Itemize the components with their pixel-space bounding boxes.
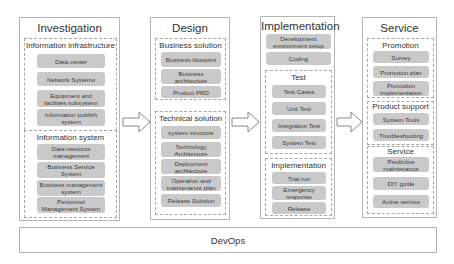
item-development-environment-setup: Development environment setup xyxy=(266,34,331,49)
item-integration-test: Integration Test xyxy=(272,119,326,132)
item-business-service-system: Business Service System xyxy=(37,162,105,178)
group-promotion: Promotion Survey Promotion plan Promotio… xyxy=(367,38,434,98)
group-title: Business solution xyxy=(156,41,225,51)
column-investigation: Investigation Information infrastructure… xyxy=(19,17,120,221)
column-title: Investigation xyxy=(20,21,119,35)
column-implementation: Implementation Development environment s… xyxy=(260,16,335,219)
item-equipment-facilities: Equipment and facilities subsystem xyxy=(37,90,105,107)
column-title: Implementation xyxy=(261,19,334,33)
item-operation-maintenance-plan: Operation and maintenance plan xyxy=(161,176,221,191)
item-release: Release xyxy=(272,202,326,214)
group-title: Information infrastructure xyxy=(25,41,116,51)
item-system-tools: System Tools xyxy=(373,113,429,125)
group-test: Test Test Cases Unit Test Integration Te… xyxy=(265,70,332,154)
group-title: Implementation xyxy=(266,161,331,171)
arrow-right-icon xyxy=(336,111,363,133)
group-service: Service Predictive maintenance DIY guide… xyxy=(367,146,434,214)
column-design: Design Business solution Business bluepr… xyxy=(150,17,230,220)
group-title: Information system xyxy=(25,133,116,143)
item-release-solution: Release Solution xyxy=(161,194,221,207)
group-title: Promotion xyxy=(368,41,433,51)
item-trial-run: Trial run xyxy=(272,172,326,184)
devops-bar: DevOps xyxy=(19,227,437,253)
item-information-publish: Information publish system xyxy=(37,109,105,126)
group-business-solution: Business solution Business blueprint Bus… xyxy=(155,38,226,100)
item-diy-guide: DIY guide xyxy=(373,177,429,190)
item-business-blueprint: Business blueprint xyxy=(161,52,221,67)
column-title: Service xyxy=(363,21,436,35)
item-promotion-implementation: Promotion implementation xyxy=(373,81,429,96)
group-title: Technical solution xyxy=(156,114,225,124)
item-technology-architecture: Technology Architecture xyxy=(161,142,221,157)
group-technical-solution: Technical solution system structure Tech… xyxy=(155,111,226,215)
item-product-prd: Product PRD xyxy=(161,86,221,98)
item-emergency-response: Emergency response xyxy=(272,186,326,200)
item-business-architecture: Business architecture xyxy=(161,69,221,84)
item-predictive-maintenance: Predictive maintenance xyxy=(373,157,429,172)
item-data-resource-management: Data resource management xyxy=(37,144,105,160)
column-service: Service Promotion Survey Promotion plan … xyxy=(362,17,437,218)
group-product-support: Product support System Tools Troubleshoo… xyxy=(367,101,434,145)
item-deployment-architecture: Deployment architecture xyxy=(161,159,221,174)
group-information-system: Information system Data resource managem… xyxy=(24,130,117,218)
item-coding: Coding xyxy=(266,52,331,65)
item-active-service: Active service xyxy=(373,195,429,208)
arrow-right-icon xyxy=(231,111,260,133)
group-information-infrastructure: Information infrastructure Data center N… xyxy=(24,38,117,140)
item-data-center: Data center xyxy=(37,54,105,68)
group-title: Product support xyxy=(368,102,433,112)
item-promotion-plan: Promotion plan xyxy=(373,66,429,78)
item-system-structure: system structure xyxy=(161,126,221,139)
arrow-right-icon xyxy=(122,111,151,133)
item-business-management-system: Business management system xyxy=(37,180,105,196)
group-title: Test xyxy=(266,73,331,83)
devops-label: DevOps xyxy=(211,235,245,246)
item-survey: Survey xyxy=(373,51,429,63)
item-network-systems: Network Systems xyxy=(37,72,105,86)
item-troubleshooting: Troubleshooting xyxy=(373,129,429,141)
item-unit-test: Unit Test xyxy=(272,102,326,115)
item-personnel-management-system: Personnel Management System xyxy=(37,197,105,213)
group-title: Service xyxy=(368,147,433,157)
item-system-test: System Test xyxy=(272,136,326,149)
item-test-cases: Test Cases xyxy=(272,85,326,98)
column-title: Design xyxy=(151,21,229,35)
group-implementation: Implementation Trial run Emergency respo… xyxy=(265,158,332,216)
